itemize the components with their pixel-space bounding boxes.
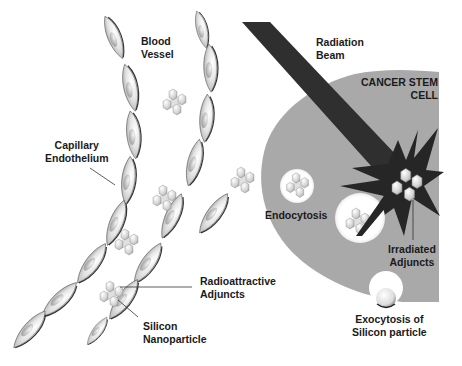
label-capillary-endothelium: Capillary Endothelium [45, 139, 109, 165]
label-line: Irradiated [388, 243, 436, 256]
label-line: Beam [316, 49, 364, 62]
label-irradiated-adjuncts: Irradiated Adjuncts [388, 243, 436, 269]
diagram-canvas [0, 0, 462, 366]
label-blood-vessel: Blood Vessel [141, 35, 174, 61]
extravasating-cells [187, 180, 235, 237]
label-line: Blood [141, 35, 174, 48]
label-radioattractive-adjuncts: Radioattractive Adjuncts [200, 275, 276, 301]
label-line: Radioattractive [200, 275, 276, 288]
label-silicon-nanoparticle: Silicon Nanoparticle [143, 320, 207, 346]
label-line: Nanoparticle [143, 333, 207, 346]
label-line: Endothelium [45, 152, 109, 165]
endocytosis-vesicle-upper [280, 169, 314, 203]
label-endocytosis: Endocytosis [265, 209, 327, 222]
label-line: Adjuncts [388, 256, 436, 269]
label-line: Silicon [143, 320, 207, 333]
label-exocytosis: Exocytosis of Silicon particle [352, 313, 427, 339]
label-line: Exocytosis of [352, 313, 427, 326]
label-line: CELL [358, 89, 438, 102]
label-line: Vessel [141, 48, 174, 61]
label-cancer-stem-cell: CANCER STEM CELL [358, 76, 438, 102]
exocytosis-vesicle [369, 271, 403, 308]
label-radiation-beam: Radiation Beam [316, 36, 364, 62]
label-line: CANCER STEM [358, 76, 438, 89]
label-line: Capillary [45, 139, 109, 152]
label-line: Radiation [316, 36, 364, 49]
label-line: Adjuncts [200, 288, 276, 301]
label-line: Silicon particle [352, 326, 427, 339]
label-line: Endocytosis [265, 209, 327, 222]
